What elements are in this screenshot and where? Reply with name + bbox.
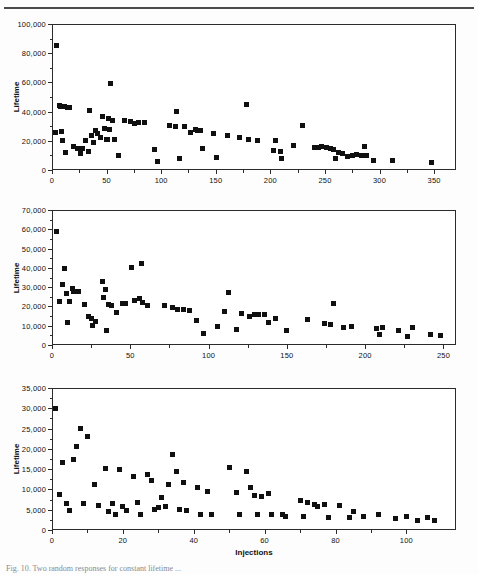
data-point bbox=[54, 43, 59, 48]
x-tick bbox=[265, 530, 266, 534]
x-tick-label: 350 bbox=[428, 176, 441, 185]
data-point bbox=[145, 303, 150, 308]
data-point bbox=[396, 328, 401, 333]
data-point bbox=[174, 109, 179, 114]
data-point bbox=[59, 129, 64, 134]
data-point bbox=[205, 489, 210, 494]
data-point bbox=[131, 474, 136, 479]
x-tick-minor bbox=[188, 170, 189, 173]
data-point bbox=[101, 295, 106, 300]
page-top-rule bbox=[4, 7, 474, 9]
x-tick-label: 0 bbox=[50, 176, 54, 185]
data-point bbox=[301, 514, 306, 519]
data-point bbox=[116, 153, 121, 158]
data-point bbox=[194, 318, 199, 323]
data-point bbox=[159, 495, 164, 500]
data-point bbox=[380, 325, 385, 330]
data-point bbox=[410, 325, 415, 330]
data-point bbox=[173, 124, 178, 129]
x-tick-label: 0 bbox=[50, 536, 54, 545]
y-tick-label: 80,000 bbox=[22, 49, 46, 58]
data-point bbox=[177, 507, 182, 512]
data-point bbox=[266, 320, 271, 325]
data-point bbox=[273, 316, 278, 321]
data-point bbox=[122, 118, 127, 123]
y-tick bbox=[48, 210, 52, 211]
data-point bbox=[215, 324, 220, 329]
x-tick-minor bbox=[300, 530, 301, 533]
data-point bbox=[113, 512, 118, 517]
y-tick bbox=[48, 229, 52, 230]
y-tick-label: 20,000 bbox=[22, 136, 46, 145]
y-tick bbox=[48, 489, 52, 490]
data-point bbox=[201, 331, 206, 336]
figure-caption: Fig. 10. Two random responses for consta… bbox=[6, 564, 472, 574]
y-tick-minor bbox=[50, 278, 53, 279]
y-tick-label: 60,000 bbox=[22, 78, 46, 87]
data-point bbox=[328, 322, 333, 327]
data-point bbox=[117, 467, 122, 472]
y-tick-minor bbox=[50, 258, 53, 259]
data-point bbox=[271, 148, 276, 153]
x-tick-label: 20 bbox=[119, 536, 128, 545]
data-point bbox=[438, 333, 443, 338]
data-point bbox=[376, 512, 381, 517]
data-point bbox=[89, 133, 94, 138]
data-point bbox=[322, 502, 327, 507]
x-tick-minor bbox=[371, 530, 372, 533]
data-point bbox=[53, 130, 58, 135]
data-point bbox=[428, 332, 433, 337]
data-point bbox=[166, 482, 171, 487]
data-point bbox=[246, 137, 251, 142]
data-point bbox=[60, 282, 65, 287]
x-tick-minor bbox=[134, 170, 135, 173]
x-tick-label: 100 bbox=[155, 176, 168, 185]
x-tick-minor bbox=[91, 345, 92, 348]
data-point bbox=[114, 310, 119, 315]
y-tick bbox=[48, 82, 52, 83]
x-tick bbox=[365, 345, 366, 349]
data-point bbox=[214, 155, 219, 160]
y-tick-minor bbox=[50, 316, 53, 317]
y-tick-label: 30,000 bbox=[22, 404, 46, 413]
data-point bbox=[78, 151, 83, 156]
y-tick-label: 15,000 bbox=[22, 465, 46, 474]
data-point bbox=[112, 137, 117, 142]
data-point bbox=[269, 512, 274, 517]
data-point bbox=[425, 515, 430, 520]
x-tick-label: 100 bbox=[202, 351, 215, 360]
data-point bbox=[155, 159, 160, 164]
data-point bbox=[209, 512, 214, 517]
data-point bbox=[100, 114, 105, 119]
data-point bbox=[64, 291, 69, 296]
data-point bbox=[138, 512, 143, 517]
data-point bbox=[60, 138, 65, 143]
data-point bbox=[255, 512, 260, 517]
data-point bbox=[184, 508, 189, 513]
data-point bbox=[124, 508, 129, 513]
plot-frame bbox=[52, 210, 456, 345]
x-tick bbox=[216, 170, 217, 174]
data-point bbox=[139, 261, 144, 266]
plot-frame bbox=[52, 388, 456, 530]
y-tick-label: 0 bbox=[42, 526, 46, 535]
data-point bbox=[175, 307, 180, 312]
data-point bbox=[331, 301, 336, 306]
x-tick bbox=[52, 530, 53, 534]
data-point bbox=[234, 327, 239, 332]
data-point bbox=[340, 151, 345, 156]
y-tick bbox=[48, 24, 52, 25]
x-tick-minor bbox=[87, 530, 88, 533]
data-point bbox=[315, 504, 320, 509]
data-point bbox=[57, 492, 62, 497]
data-point bbox=[167, 123, 172, 128]
y-tick bbox=[48, 287, 52, 288]
data-point bbox=[415, 518, 420, 523]
x-tick-minor bbox=[407, 170, 408, 173]
data-point bbox=[322, 321, 327, 326]
data-point bbox=[278, 149, 283, 154]
y-tick-label: 50,000 bbox=[22, 244, 46, 253]
data-point bbox=[149, 478, 154, 483]
y-tick-label: 70,000 bbox=[22, 206, 46, 215]
data-point bbox=[244, 102, 249, 107]
